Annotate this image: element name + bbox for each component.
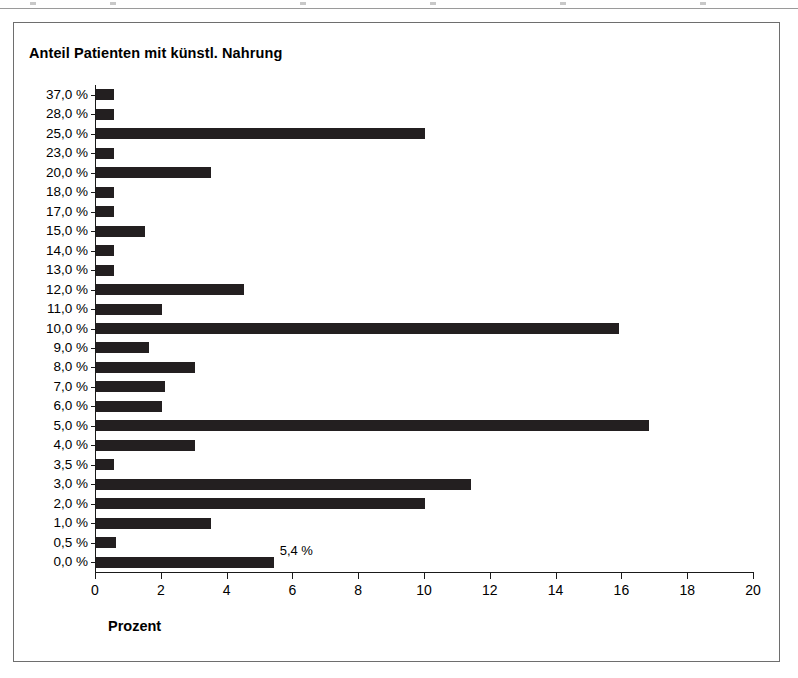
value-tick [95, 573, 96, 579]
value-tick [424, 573, 425, 579]
category-label: 7,0 % [53, 380, 88, 394]
bar [96, 128, 425, 139]
bar [96, 440, 195, 451]
bar [96, 109, 114, 120]
bar [96, 304, 162, 315]
value-tick-label: 2 [157, 582, 165, 598]
category-label: 25,0 % [46, 127, 88, 141]
bar-row: 15,0 % [96, 226, 754, 237]
bar-row: 25,0 % [96, 128, 754, 139]
bar-row: 14,0 % [96, 245, 754, 256]
bar [96, 187, 114, 198]
category-label: 5,0 % [53, 419, 88, 433]
value-tick-label: 10 [416, 582, 432, 598]
bar [96, 226, 145, 237]
category-label: 15,0 % [46, 224, 88, 238]
value-tick-label: 14 [548, 582, 564, 598]
bar-row: 18,0 % [96, 187, 754, 198]
bar [96, 557, 274, 568]
bar-row: 8,0 % [96, 362, 754, 373]
value-tick-label: 8 [354, 582, 362, 598]
value-tick [687, 573, 688, 579]
bar-row: 0,5 % [96, 537, 754, 548]
scan-artifact-line [0, 8, 798, 9]
chart-page: { "figure": { "title": "Anteil Patienten… [0, 0, 798, 678]
category-label: 18,0 % [46, 185, 88, 199]
value-tick [161, 573, 162, 579]
value-tick-label: 18 [679, 582, 695, 598]
bar-row: 6,0 % [96, 401, 754, 412]
bar-value-label: 5,4 % [280, 543, 313, 558]
category-label: 3,5 % [53, 458, 88, 472]
category-label: 4,0 % [53, 438, 88, 452]
bar [96, 323, 619, 334]
bar-row: 7,0 % [96, 381, 754, 392]
bar-row: 17,0 % [96, 206, 754, 217]
bar [96, 206, 114, 217]
bar [96, 245, 114, 256]
bar [96, 518, 211, 529]
category-label: 10,0 % [46, 322, 88, 336]
bar [96, 420, 649, 431]
bar-row: 9,0 % [96, 342, 754, 353]
scan-artifact-specks [0, 0, 798, 7]
bar-row: 10,0 % [96, 323, 754, 334]
category-label: 6,0 % [53, 399, 88, 413]
bar [96, 265, 114, 276]
value-tick [556, 573, 557, 579]
value-tick [753, 573, 754, 579]
bar-row: 1,0 % [96, 518, 754, 529]
category-label: 17,0 % [46, 205, 88, 219]
bar [96, 401, 162, 412]
bar-row: 23,0 % [96, 148, 754, 159]
bar [96, 342, 149, 353]
value-tick-label: 20 [745, 582, 761, 598]
bar-row: 28,0 % [96, 109, 754, 120]
category-label: 0,5 % [53, 536, 88, 550]
value-tick [490, 573, 491, 579]
bar-row: 2,0 % [96, 498, 754, 509]
bar [96, 167, 211, 178]
bar-row: 37,0 % [96, 89, 754, 100]
category-label: 11,0 % [47, 302, 88, 316]
value-tick [621, 573, 622, 579]
bar-row: 0,0 %5,4 % [96, 557, 754, 568]
bar-row: 11,0 % [96, 304, 754, 315]
category-label: 9,0 % [53, 341, 88, 355]
bar-row: 12,0 % [96, 284, 754, 295]
category-label: 37,0 % [46, 88, 88, 102]
category-label: 2,0 % [53, 497, 88, 511]
bar [96, 498, 425, 509]
bar-row: 3,5 % [96, 459, 754, 470]
value-tick [358, 573, 359, 579]
value-axis-title: Prozent [108, 618, 161, 634]
category-label: 3,0 % [53, 477, 88, 491]
bar-row: 13,0 % [96, 265, 754, 276]
category-label: 8,0 % [53, 360, 88, 374]
bar [96, 148, 114, 159]
category-label: 14,0 % [46, 244, 88, 258]
chart-title: Anteil Patienten mit künstl. Nahrung [29, 45, 282, 61]
category-label: 23,0 % [46, 146, 88, 160]
value-tick-label: 16 [614, 582, 630, 598]
bar [96, 537, 116, 548]
bar [96, 479, 471, 490]
bar-row: 4,0 % [96, 440, 754, 451]
bar [96, 381, 165, 392]
bar-row: 5,0 % [96, 420, 754, 431]
category-label: 13,0 % [46, 263, 88, 277]
bar [96, 89, 114, 100]
value-tick-label: 4 [223, 582, 231, 598]
category-label: 0,0 % [53, 555, 88, 569]
plot-area: 37,0 %28,0 %25,0 %23,0 %20,0 %18,0 %17,0… [95, 85, 753, 572]
category-label: 20,0 % [46, 166, 88, 180]
value-tick-label: 6 [288, 582, 296, 598]
bar-row: 3,0 % [96, 479, 754, 490]
value-tick-label: 12 [482, 582, 498, 598]
value-tick [292, 573, 293, 579]
value-tick [227, 573, 228, 579]
category-label: 12,0 % [46, 283, 88, 297]
category-label: 1,0 % [53, 516, 88, 530]
bar [96, 284, 244, 295]
bar [96, 459, 114, 470]
